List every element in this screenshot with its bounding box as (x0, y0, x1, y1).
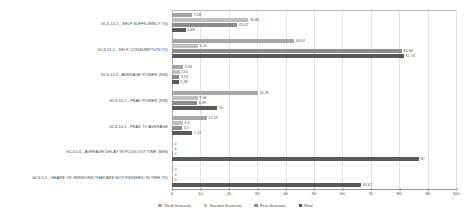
bar-row: 9,06 (172, 96, 456, 100)
legend-label: Second Scenario (209, 203, 241, 208)
x-tick-label: 10 (198, 191, 203, 196)
bar-value-label: 0 (175, 168, 177, 172)
bar-value-label: 30,26 (259, 91, 269, 95)
bar (172, 157, 419, 161)
bar (172, 91, 258, 95)
bar (172, 39, 294, 43)
legend-label: Third Scenario (164, 203, 191, 208)
legend-swatch-icon (299, 204, 303, 208)
x-tick-label: 60 (340, 191, 345, 196)
x-tick-mark (257, 188, 258, 191)
x-tick-mark (314, 188, 315, 191)
bar-value-label: 2,38 (180, 80, 187, 84)
bar-value-label: 3,5 (183, 126, 188, 130)
bar (172, 44, 198, 48)
bar-row: 0 (172, 178, 456, 182)
bar (172, 126, 182, 130)
legend-swatch-icon (158, 204, 162, 208)
bar-groups: GC3.14.2 - SELF SUFFICIENCY (%)7,0826,84… (172, 10, 456, 190)
bar-value-label: 0 (175, 173, 177, 177)
bar-row: 0 (172, 152, 456, 156)
bar (172, 18, 248, 22)
bar (172, 106, 217, 110)
bar-row: 26,84 (172, 18, 456, 22)
x-tick-label: 40 (283, 191, 288, 196)
bar-row: 23,02 (172, 23, 456, 27)
bar (172, 65, 183, 69)
legend-swatch-icon (204, 204, 208, 208)
plot-area: GC3.14.2 - SELF SUFFICIENCY (%)7,0826,84… (172, 10, 456, 190)
bar-row: 80,94 (172, 49, 456, 53)
bar (172, 173, 173, 177)
bar-value-label: 8,89 (199, 101, 206, 105)
legend-item[interactable]: Second Scenario (204, 203, 241, 208)
bar-row: 7,08 (172, 13, 456, 17)
bar-value-label: 0 (175, 178, 177, 182)
legend-item[interactable]: Third Scenario (158, 203, 191, 208)
bar (172, 168, 173, 172)
category-label: GC3.14.1 - SELF CONSUMPTION (%) (97, 46, 168, 51)
bar-row: 66,67 (172, 183, 456, 187)
bar-row: 2,53 (172, 75, 456, 79)
x-tick-label: 80 (397, 191, 402, 196)
bar-value-label: 0 (175, 147, 177, 151)
bar (172, 131, 192, 135)
x-tick-mark (428, 188, 429, 191)
bar (172, 101, 197, 105)
category-label: GC3.10.2 - PEAK POWER (KW) (109, 98, 168, 103)
bar-value-label: 2,53 (181, 75, 188, 79)
bar-row: 8,89 (172, 101, 456, 105)
bar (172, 49, 402, 53)
x-tick-mark (200, 188, 201, 191)
bar-group: GC3.5.5 - SHARE OF SESSIONS THAT ARE NOT… (172, 164, 456, 190)
bar-value-label: 0 (175, 142, 177, 146)
x-tick-label: 0 (171, 191, 173, 196)
bar (172, 96, 198, 100)
bar (172, 28, 186, 32)
bar-row: 43,07 (172, 39, 456, 43)
bar-row: 3,8 (172, 121, 456, 125)
bar-row: 4,88 (172, 28, 456, 32)
bar-value-label: 7,14 (194, 131, 201, 135)
bar-row: 0 (172, 147, 456, 151)
x-tick-mark (399, 188, 400, 191)
legend-item[interactable]: First Scenario (254, 203, 285, 208)
bar-value-label: 23,02 (239, 23, 249, 27)
x-tick-mark (456, 188, 457, 191)
bar-value-label: 9,15 (199, 44, 206, 48)
bar-value-label: 0 (175, 152, 177, 156)
category-label: GC3.14.2 - SELF SUFFICIENCY (%) (101, 20, 168, 25)
bar-value-label: 3,8 (184, 121, 189, 125)
bar (172, 121, 183, 125)
bar-value-label: 7,08 (194, 13, 201, 17)
bar (172, 70, 180, 74)
bar-value-label: 80,94 (403, 49, 413, 53)
bar-value-label: 81,73 (406, 54, 416, 58)
bar (172, 152, 173, 156)
bar-row: 2,65 (172, 70, 456, 74)
bar-row: 12,29 (172, 116, 456, 120)
bar-group: GC3.10.1 - PEAK TO AVERAGE12,293,83,57,1… (172, 113, 456, 139)
bar-group: GC3.10.2 - PEAK POWER (KW)30,269,068,891… (172, 87, 456, 113)
bar-value-label: 26,84 (250, 18, 260, 22)
bar (172, 23, 237, 27)
category-label: GC3.10.1 - PEAK TO AVERAGE (109, 123, 168, 128)
bar-value-label: 9,06 (199, 96, 206, 100)
bar-row: 3,94 (172, 65, 456, 69)
legend-label: Real (304, 203, 313, 208)
bar (172, 54, 404, 58)
x-tick-mark (229, 188, 230, 191)
bar-value-label: 16 (219, 106, 223, 110)
bar-row: 81,73 (172, 54, 456, 58)
bar-value-label: 43,07 (296, 39, 306, 43)
bar (172, 13, 192, 17)
x-tick-mark (172, 188, 173, 191)
legend-item[interactable]: Real (299, 203, 313, 208)
gridline (456, 10, 457, 190)
bar-row: 9,15 (172, 44, 456, 48)
bar (172, 183, 361, 187)
bar-group: GC3.5.6 - AVERAGE DELAY IN PLUG-OUT TIME… (172, 139, 456, 165)
bar-value-label: 12,29 (208, 116, 218, 120)
bar-row: 0 (172, 168, 456, 172)
bar-group: GC3.14.2 - SELF SUFFICIENCY (%)7,0826,84… (172, 10, 456, 36)
